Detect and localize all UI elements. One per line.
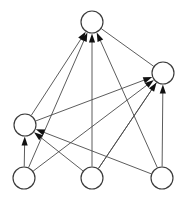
arrowhead-icon (97, 32, 104, 41)
graph-node[interactable] (81, 11, 103, 33)
edges-layer (24, 29, 163, 174)
arrowhead-icon (89, 34, 95, 43)
arrowhead-icon (22, 137, 28, 146)
graph-edge (98, 83, 156, 169)
nodes-layer (13, 11, 174, 189)
graph-node[interactable] (13, 167, 35, 189)
graph-edge (29, 40, 84, 167)
graph-node[interactable] (152, 62, 174, 84)
graph-edge (41, 137, 83, 170)
graph-node[interactable] (151, 167, 173, 189)
graph-node[interactable] (14, 114, 36, 136)
directed-graph-figure (0, 0, 183, 197)
graph-node[interactable] (81, 167, 103, 189)
arrowheads-layer (22, 32, 166, 146)
graph-edge (100, 40, 157, 167)
graph-edge (36, 80, 145, 121)
arrowhead-icon (160, 85, 166, 94)
graph-edge (162, 93, 163, 167)
graph-canvas (0, 0, 183, 197)
graph-edge (33, 85, 147, 171)
